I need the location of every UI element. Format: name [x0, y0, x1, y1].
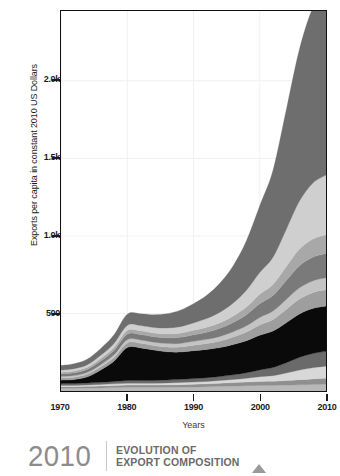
- caption-divider: [106, 441, 107, 471]
- caption-year: 2010: [28, 440, 95, 472]
- y-axis-ticks: 5001.0k1.5k2.0k: [0, 0, 60, 402]
- x-tick-label: 2000: [240, 402, 280, 412]
- x-tick-mark: [193, 394, 195, 401]
- caption-text: EVOLUTION OF EXPORT COMPOSITION: [116, 444, 246, 469]
- triangle-up-icon: [252, 464, 266, 473]
- x-tick-label: 2010: [307, 402, 340, 412]
- y-tick-label: 2.0k: [26, 74, 60, 84]
- x-tick-label: 1990: [174, 402, 214, 412]
- x-tick-label: 1970: [40, 402, 80, 412]
- caption-line-2: EXPORT COMPOSITION: [116, 456, 240, 469]
- stacked-area-chart: [61, 11, 326, 391]
- y-tick-label: 1.0k: [26, 230, 60, 240]
- y-tick-label: 1.5k: [26, 152, 60, 162]
- caption-bar: 2010 EVOLUTION OF EXPORT COMPOSITION: [28, 438, 328, 474]
- x-tick-mark: [126, 394, 128, 401]
- caption-line-1: EVOLUTION OF: [116, 444, 240, 457]
- plot-area: [60, 10, 327, 392]
- x-axis: 19701980199020002010: [60, 392, 327, 422]
- x-tick-mark: [326, 394, 328, 401]
- x-tick-label: 1980: [107, 402, 147, 412]
- y-tick-label: 500: [26, 308, 60, 318]
- x-tick-mark: [260, 394, 262, 401]
- x-axis-title: Years: [60, 420, 327, 430]
- chart-figure: Exports per capita in constant 2010 US D…: [0, 0, 340, 476]
